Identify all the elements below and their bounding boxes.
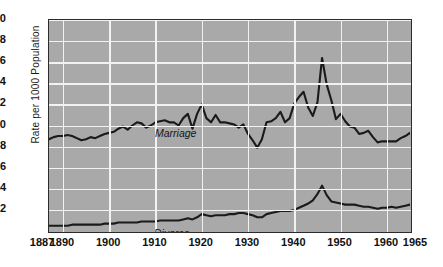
gridline-horizontal	[49, 104, 411, 105]
y-tick-label: 16	[0, 54, 6, 66]
gridline-vertical	[63, 20, 64, 232]
gridline-vertical	[155, 20, 156, 232]
gridline-horizontal	[49, 62, 411, 63]
gridline-vertical	[294, 20, 295, 232]
y-tick-label: 18	[0, 33, 6, 45]
gridline-horizontal	[49, 189, 411, 190]
gridline-horizontal	[49, 20, 411, 21]
y-tick-label: 6	[0, 160, 6, 172]
gridline-horizontal	[49, 210, 411, 211]
gridline-horizontal	[49, 41, 411, 42]
gridline-vertical	[109, 20, 110, 232]
x-tick-label: 1910	[142, 236, 166, 248]
y-tick-label: 2	[0, 202, 6, 214]
gridline-horizontal	[49, 126, 411, 127]
series-label-divorce: Divorce	[154, 227, 190, 233]
x-tick-label: 1960	[374, 236, 398, 248]
x-tick-label: 1940	[281, 236, 305, 248]
plot-area: Marriage Divorce	[48, 19, 412, 233]
gridline-vertical	[341, 20, 342, 232]
x-tick-label: 1890	[50, 236, 74, 248]
y-tick-label: 20	[0, 12, 6, 24]
gridline-vertical	[387, 20, 388, 232]
x-tick-label: 1950	[327, 236, 351, 248]
y-tick-label: 10	[0, 118, 6, 130]
x-axis-tick-labels: 1887189019001910192019301940195019601965	[0, 236, 443, 254]
x-tick-label: 1965	[403, 236, 427, 248]
divorce-line	[49, 186, 410, 226]
gridline-horizontal	[49, 147, 411, 148]
y-tick-label: 8	[0, 139, 6, 151]
y-tick-label: 12	[0, 96, 6, 108]
series-label-marriage: Marriage	[155, 127, 196, 139]
x-tick-label: 1900	[96, 236, 120, 248]
x-tick-label: 1930	[235, 236, 259, 248]
gridline-vertical	[248, 20, 249, 232]
y-tick-label: 14	[0, 75, 6, 87]
x-tick-label: 1920	[188, 236, 212, 248]
marriage-line	[49, 58, 410, 148]
gridline-vertical	[202, 20, 203, 232]
gridline-horizontal	[49, 168, 411, 169]
gridline-horizontal	[49, 83, 411, 84]
y-tick-label: 4	[0, 181, 6, 193]
chart-page: Rate per 1000 Population 246810121416182…	[0, 0, 443, 267]
